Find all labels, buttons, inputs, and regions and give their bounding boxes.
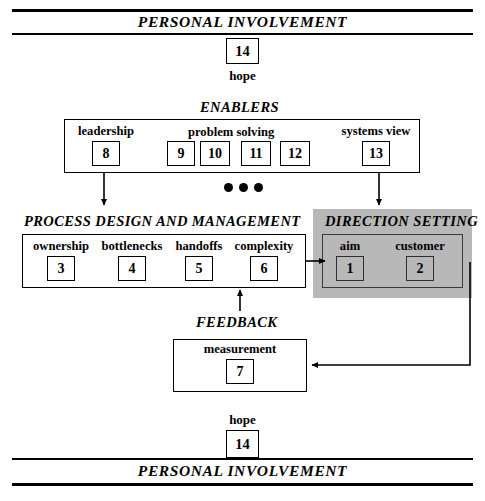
feedback-measurement-number: 7 (226, 359, 254, 384)
process-handoffs-number: 5 (185, 256, 213, 281)
top-banner-rule-upper (12, 9, 473, 12)
process-handoffs-label: handoffs (168, 240, 230, 253)
hope-number-box-top: 14 (226, 38, 259, 64)
ellipsis-dot-1 (224, 183, 233, 192)
process-complexity-label: complexity (228, 240, 300, 253)
process-bottlenecks: bottlenecks 4 (94, 240, 170, 281)
direction-customer-number: 2 (406, 256, 434, 281)
enabler-leadership-label: leadership (70, 125, 142, 138)
enabler-systems-view-number: 13 (362, 141, 390, 166)
feedback-measurement: measurement 7 (186, 343, 294, 384)
enabler-item-12: 12 (280, 141, 310, 166)
ellipsis-dot-2 (239, 183, 248, 192)
feedback-caption: FEEDBACK (196, 314, 277, 331)
bottom-banner-rule-lower (12, 483, 473, 486)
enabler-number-11: 11 (241, 141, 271, 166)
enablers-caption: ENABLERS (200, 99, 279, 116)
top-banner-rule-lower (12, 33, 473, 35)
process-handoffs: handoffs 5 (168, 240, 230, 281)
hope-label-bottom: hope (206, 412, 279, 428)
direction-setting-caption: DIRECTION SETTING (325, 213, 478, 230)
enabler-item-11: 11 (241, 141, 271, 166)
process-complexity-number: 6 (250, 256, 278, 281)
bottom-banner-rule-upper (12, 458, 473, 460)
bottom-banner-title: PERSONAL INVOLVEMENT (0, 462, 485, 480)
process-ownership-label: ownership (26, 240, 96, 253)
enabler-number-10: 10 (200, 141, 230, 166)
hope-number-box-bottom: 14 (226, 430, 259, 458)
enabler-problem-solving-label: problem solving (188, 125, 274, 140)
process-bottlenecks-label: bottlenecks (94, 240, 170, 253)
enabler-leadership-number: 8 (92, 141, 120, 166)
direction-aim-number: 1 (336, 256, 364, 281)
enabler-leadership: leadership 8 (70, 125, 142, 166)
process-ownership: ownership 3 (26, 240, 96, 281)
enabler-item-10: 10 (200, 141, 230, 166)
enabler-number-12: 12 (280, 141, 310, 166)
diagram-canvas: PERSONAL INVOLVEMENT 14 hope ENABLERS le… (0, 0, 485, 501)
direction-customer: customer 2 (385, 240, 455, 281)
hope-label-top: hope (206, 68, 279, 84)
enabler-systems-view-label: systems view (338, 125, 414, 138)
top-banner-title: PERSONAL INVOLVEMENT (0, 13, 485, 31)
direction-aim-label: aim (325, 240, 375, 253)
process-ownership-number: 3 (47, 256, 75, 281)
enabler-systems-view: systems view 13 (338, 125, 414, 166)
ellipsis-dots (224, 183, 263, 192)
direction-customer-label: customer (385, 240, 455, 253)
feedback-measurement-label: measurement (186, 343, 294, 356)
process-complexity: complexity 6 (228, 240, 300, 281)
process-bottlenecks-number: 4 (118, 256, 146, 281)
ellipsis-dot-3 (254, 183, 263, 192)
process-caption: PROCESS DESIGN AND MANAGEMENT (24, 213, 301, 230)
enabler-number-9: 9 (167, 141, 195, 166)
enabler-item-9: 9 (167, 141, 195, 166)
direction-aim: aim 1 (325, 240, 375, 281)
